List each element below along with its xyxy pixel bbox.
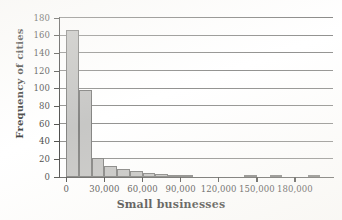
- x-tick-30000: [104, 177, 105, 182]
- bar: [92, 158, 105, 177]
- bar: [130, 171, 143, 177]
- bar: [308, 175, 321, 177]
- y-tick-label-60: 60: [10, 119, 50, 129]
- x-tick-label-180000: 180,000: [265, 184, 325, 194]
- bar: [66, 30, 79, 177]
- gridline-160: [60, 35, 333, 36]
- y-tick-label-80: 80: [10, 101, 50, 111]
- bar: [244, 175, 257, 177]
- y-tick-label-40: 40: [10, 136, 50, 146]
- gridline-180: [60, 17, 333, 18]
- gridline-60: [60, 123, 333, 124]
- gridline-80: [60, 105, 333, 106]
- bar: [270, 175, 283, 177]
- x-tick-90000: [180, 177, 181, 182]
- x-axis-line: [59, 177, 334, 178]
- x-tick-0: [66, 177, 67, 182]
- bar: [79, 90, 92, 177]
- bar: [155, 174, 168, 177]
- gridline-40: [60, 141, 333, 142]
- bar: [104, 166, 117, 177]
- plot-area: [60, 18, 333, 177]
- y-tick-label-180: 180: [10, 13, 50, 23]
- y-tick-label-160: 160: [10, 30, 50, 40]
- gridline-140: [60, 52, 333, 53]
- y-tick-label-140: 140: [10, 48, 50, 58]
- y-tick-label-100: 100: [10, 83, 50, 93]
- histogram-chart: Frequency of cities 02040608010012014016…: [0, 0, 342, 220]
- gridline-100: [60, 88, 333, 89]
- x-axis-title: Small businesses: [0, 198, 342, 211]
- bar: [143, 173, 156, 177]
- gridline-120: [60, 70, 333, 71]
- bar: [168, 175, 181, 177]
- x-tick-150000: [256, 177, 257, 182]
- x-tick-60000: [142, 177, 143, 182]
- y-tick-label-120: 120: [10, 66, 50, 76]
- y-tick-label-20: 20: [10, 154, 50, 164]
- x-tick-120000: [218, 177, 219, 182]
- y-tick-label-0: 0: [10, 172, 50, 182]
- bar: [117, 169, 130, 177]
- bar: [181, 175, 194, 177]
- x-tick-180000: [294, 177, 295, 182]
